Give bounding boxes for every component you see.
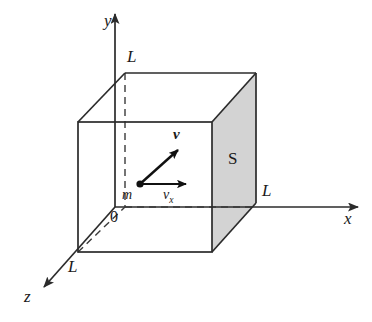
edge-length-label-y: L (127, 48, 136, 65)
mass-label-m: m (122, 188, 132, 202)
cube-diagram (0, 0, 372, 322)
velocity-x-subscript: x (169, 195, 173, 205)
particle-dot (136, 180, 143, 187)
edge-length-label-x: L (262, 182, 271, 199)
face-label-S: S (228, 150, 237, 167)
edge-length-label-z: L (68, 258, 77, 275)
velocity-label-v: v (173, 127, 180, 142)
physics-figure: y x z 0 L L L S v m vx (0, 0, 372, 322)
axis-label-z: z (24, 288, 31, 305)
velocity-vector-v (140, 150, 178, 184)
cube-edge-top-left (78, 73, 125, 122)
velocity-x-label: vx (163, 188, 173, 205)
origin-label: 0 (110, 209, 118, 225)
axis-z (44, 207, 115, 287)
caption-clipped-strip (0, 312, 372, 322)
axis-label-x: x (344, 210, 352, 227)
axis-label-y: y (104, 12, 112, 29)
